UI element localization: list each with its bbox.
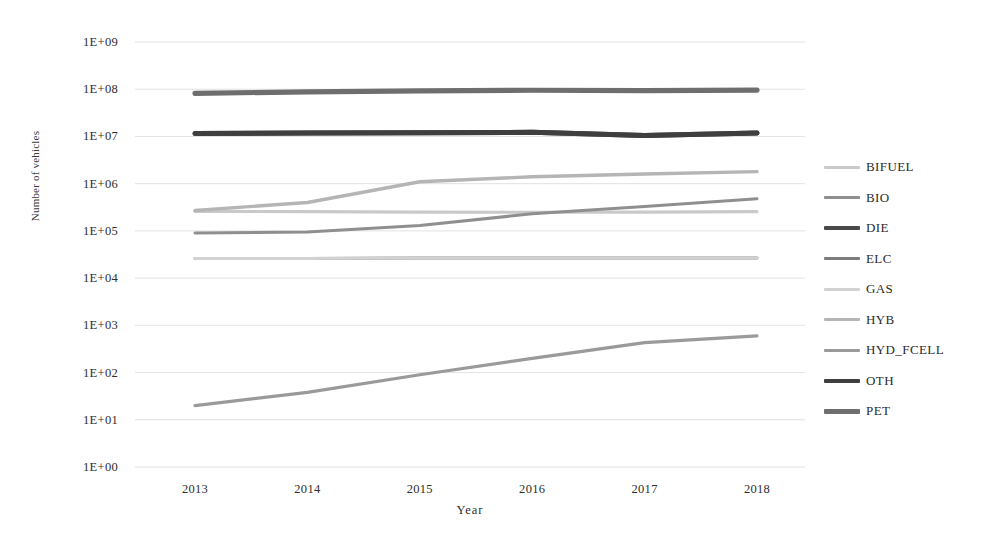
legend-swatch-icon — [824, 226, 860, 230]
y-tick-label: 1E+07 — [83, 129, 118, 144]
legend-label: HYD_FCELL — [866, 342, 944, 358]
legend-item-pet[interactable]: PET — [824, 396, 994, 427]
y-axis-tick-labels: 1E+091E+081E+071E+061E+051E+041E+031E+02… — [0, 0, 132, 553]
y-tick-label: 1E+09 — [83, 35, 118, 50]
series-line-bifuel — [195, 211, 757, 212]
y-tick-label: 1E+00 — [83, 460, 118, 475]
y-tick-label: 1E+02 — [83, 365, 118, 380]
x-tick-label: 2018 — [744, 482, 770, 497]
legend-swatch-icon — [824, 288, 860, 291]
legend-item-die[interactable]: DIE — [824, 213, 994, 244]
legend-swatch-icon — [824, 409, 860, 414]
legend-item-hyb[interactable]: HYB — [824, 305, 994, 336]
legend-item-bifuel[interactable]: BIFUEL — [824, 152, 994, 183]
legend-swatch-icon — [824, 257, 860, 260]
legend-item-elc[interactable]: ELC — [824, 244, 994, 275]
legend-swatch-icon — [824, 166, 860, 169]
series-line-oth — [195, 132, 757, 135]
legend-swatch-icon — [824, 196, 860, 199]
legend-swatch-icon — [824, 318, 860, 321]
y-tick-label: 1E+08 — [83, 82, 118, 97]
y-tick-label: 1E+05 — [83, 223, 118, 238]
legend-label: BIO — [866, 190, 890, 206]
y-tick-label: 1E+06 — [83, 176, 118, 191]
legend-swatch-icon — [824, 349, 860, 352]
legend-item-gas[interactable]: GAS — [824, 274, 994, 305]
legend-label: BIFUEL — [866, 159, 914, 175]
x-axis-title: Year — [135, 503, 805, 518]
x-tick-label: 2013 — [182, 482, 208, 497]
y-tick-label: 1E+04 — [83, 271, 118, 286]
x-tick-label: 2015 — [407, 482, 433, 497]
legend-label: OTH — [866, 373, 894, 389]
legend-label: HYB — [866, 312, 895, 328]
y-tick-label: 1E+03 — [83, 318, 118, 333]
y-tick-label: 1E+01 — [83, 412, 118, 427]
series-line-pet — [195, 90, 757, 93]
legend-item-bio[interactable]: BIO — [824, 183, 994, 214]
plot-svg — [135, 24, 805, 479]
legend-label: GAS — [866, 281, 893, 297]
legend-swatch-icon — [824, 379, 860, 383]
legend-item-hyd_fcell[interactable]: HYD_FCELL — [824, 335, 994, 366]
legend-label: DIE — [866, 220, 889, 236]
x-tick-label: 2014 — [294, 482, 320, 497]
x-tick-label: 2016 — [519, 482, 545, 497]
legend-item-oth[interactable]: OTH — [824, 366, 994, 397]
legend-label: PET — [866, 403, 890, 419]
series-line-hyd_fcell — [195, 336, 757, 406]
line-chart: Number of vehicles 1E+091E+081E+071E+061… — [0, 0, 998, 553]
legend-label: ELC — [866, 251, 892, 267]
x-axis-tick-labels: 201320142015201620172018 — [135, 482, 805, 504]
x-tick-label: 2017 — [631, 482, 657, 497]
plot-area — [135, 24, 805, 479]
legend: BIFUELBIODIEELCGASHYBHYD_FCELLOTHPET — [824, 152, 994, 427]
